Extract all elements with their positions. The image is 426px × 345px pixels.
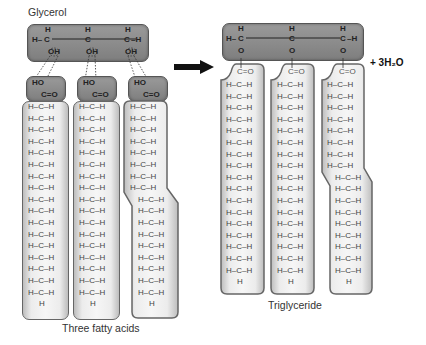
methylene-row: H–C–H	[277, 220, 303, 228]
methylene-row: H–C–H	[277, 116, 303, 124]
methylene-row: H–C–H	[277, 81, 303, 89]
methylene-row: H–C–H	[277, 209, 303, 217]
methylene-row: H–C–H	[277, 243, 303, 251]
methylene-row: H–C–H	[335, 232, 361, 240]
methylene-row: H–C–H	[327, 116, 353, 124]
methylene-row: H–C–H	[277, 197, 303, 205]
methylene-row: H–C–H	[277, 255, 303, 263]
methylene-row: H–C–H	[226, 232, 252, 240]
atom-c: C	[238, 35, 244, 43]
methylene-row: H–C–H	[327, 104, 353, 112]
methylene-row: H–C–H	[226, 151, 252, 159]
methylene-row: H–C–H	[226, 209, 252, 217]
methylene-row: H–C–H	[226, 127, 252, 135]
methylene-row: H–C–H	[277, 127, 303, 135]
carbonyl: C=O	[339, 68, 356, 76]
methylene-row: H–C–H	[335, 209, 361, 217]
methylene-row: H–C–H	[327, 162, 353, 170]
methylene-row: H–C–H	[226, 255, 252, 263]
methylene-row: H–C–H	[327, 81, 353, 89]
ester-oxygen: O	[340, 47, 346, 55]
methylene-row: H–C–H	[226, 267, 252, 275]
methylene-row: H–C–H	[277, 232, 303, 240]
methylene-row: H–C–H	[277, 104, 303, 112]
terminal-hydrogen: H	[346, 278, 352, 286]
triglyceride-bonds	[0, 0, 426, 345]
methylene-row: H–C–H	[335, 267, 361, 275]
methylene-row: H–C–H	[226, 220, 252, 228]
methylene-row: H–C–H	[277, 93, 303, 101]
methylene-row: H–C–H	[226, 139, 252, 147]
methylene-row: H–C–H	[277, 185, 303, 193]
methylene-row: H–C–H	[226, 93, 252, 101]
ester-oxygen: O	[238, 47, 244, 55]
atom-c: C	[289, 35, 295, 43]
atom-h: H	[289, 25, 295, 33]
methylene-row: H–C–H	[226, 185, 252, 193]
carbonyl: C=O	[237, 68, 254, 76]
methylene-row: H–C–H	[277, 162, 303, 170]
methylene-row: H–C–H	[327, 151, 353, 159]
methylene-row: H–C–H	[226, 81, 252, 89]
methylene-row: H–C–H	[335, 185, 361, 193]
methylene-row: H–C–H	[277, 151, 303, 159]
methylene-row: H–C–H	[327, 93, 353, 101]
methylene-row: H–C–H	[226, 116, 252, 124]
atom-h: H–	[226, 35, 236, 43]
methylene-row: H–C–H	[335, 255, 361, 263]
methylene-row: H–C–H	[277, 139, 303, 147]
carbonyl: C=O	[288, 68, 305, 76]
methylene-row: H–C–H	[327, 139, 353, 147]
methylene-row: H–C–H	[226, 243, 252, 251]
methylene-row: H–C–H	[226, 197, 252, 205]
methylene-row: H–C–H	[327, 127, 353, 135]
methylene-row: H–C–H	[335, 174, 361, 182]
methylene-row: H–C–H	[335, 197, 361, 205]
atom-h: –H	[347, 35, 357, 43]
terminal-hydrogen: H	[288, 278, 294, 286]
methylene-row: H–C–H	[277, 267, 303, 275]
methylene-row: H–C–H	[226, 104, 252, 112]
methylene-row: H–C–H	[335, 243, 361, 251]
methylene-row: H–C–H	[335, 220, 361, 228]
terminal-hydrogen: H	[237, 278, 243, 286]
atom-h: H	[340, 25, 346, 33]
atom-c: C	[340, 35, 346, 43]
ester-oxygen: O	[289, 47, 295, 55]
methylene-row: H–C–H	[226, 162, 252, 170]
atom-h: H	[238, 25, 244, 33]
methylene-row: H–C–H	[277, 174, 303, 182]
methylene-row: H–C–H	[226, 174, 252, 182]
